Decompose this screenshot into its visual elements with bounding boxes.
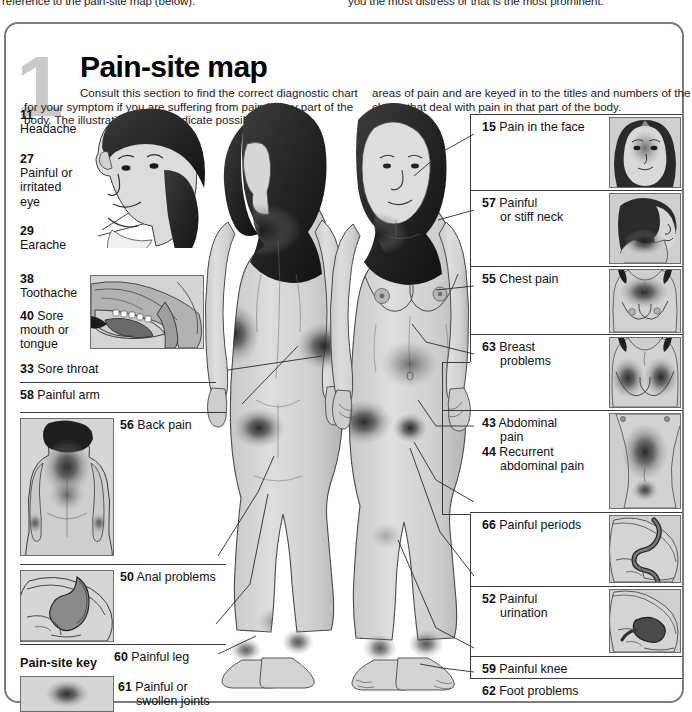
label-57-text-line1: Painful [499,196,537,210]
label-15-number: 15 [482,120,496,134]
cut-text-right: you the most distress or that is the mos… [348,0,604,7]
label-33-text: Sore throat [37,362,98,376]
label-66-text: Painful periods [499,518,581,532]
label-52-text-line2: urination [482,606,548,620]
label-56-text: Back pain [137,418,191,432]
label-27-text-line3: eye [20,195,40,209]
label-61-number: 61 [118,680,132,694]
label-38-text: Toothache [20,286,77,300]
divider-r7 [470,656,682,657]
label-27-painful-eye: 27 Painful or irritated eye [20,152,72,209]
label-66-painful-periods: 66 Painful periods [482,518,581,532]
anal-problems-panel [20,570,114,642]
divider-r0 [470,114,682,115]
label-44-number: 44 [482,445,496,459]
face-front-thumb [609,117,681,188]
label-61-text-line2: swollen joints [118,694,210,708]
divider-above-painful-leg [20,644,226,645]
divider-r2 [470,266,682,267]
label-40-number: 40 [20,309,34,323]
label-56-number: 56 [120,418,134,432]
right-column-step-connector [442,514,470,515]
label-11-headache: 11 Headache [20,108,77,136]
chest-thumb [609,269,681,333]
label-44-text-line1: Recurrent [499,445,553,459]
label-50-text: Anal problems [137,570,216,584]
label-63-number: 63 [482,340,496,354]
label-58-painful-arm: 58 Painful arm [20,388,100,402]
head-profile-illustration [68,108,218,248]
pain-site-key-swatch [20,676,114,712]
divider-r1 [470,190,682,191]
breast-thumb [609,337,681,408]
pelvis-uterus-thumb [609,515,681,583]
center-front-figure [330,103,470,690]
label-62-text: Foot problems [499,684,578,698]
label-59-painful-knee: 59 Painful knee [482,662,567,676]
label-15-pain-in-the-face: 15 Pain in the face [482,120,585,134]
label-61-text-line1: Painful or [135,680,187,694]
label-43-number: 43 [482,416,496,430]
right-column-left-border-mid [442,362,443,514]
label-50-number: 50 [120,570,134,584]
label-27-text-line1: Painful or [20,166,72,180]
label-40-text-line1: Sore [37,309,63,323]
label-59-number: 59 [482,662,496,676]
label-43-text-line1: Abdominal [499,416,558,430]
label-62-number: 62 [482,684,496,698]
label-38-number: 38 [20,272,34,286]
divider-above-painful-arm [20,382,216,383]
label-40-text-line2: mouth or [20,323,69,337]
label-62-foot-problems: 62 Foot problems [482,684,578,698]
label-43-abdominal-pain: 43 Abdominal pain [482,416,557,444]
right-column-left-border-bottom [470,514,471,679]
right-column-left-border-top [470,114,471,362]
right-column-step-connector-upper [442,362,470,363]
label-40-text-line3: tongue [20,337,58,351]
label-57-number: 57 [482,196,496,210]
label-63-text-line2: problems [482,354,551,368]
label-60-painful-leg: 60 Painful leg [114,650,189,664]
label-33-sore-throat: 33 Sore throat [20,362,99,376]
label-61-painful-joints: 61 Painful or swollen joints [118,680,210,708]
label-52-painful-urination: 52 Painful urination [482,592,548,620]
label-60-text: Painful leg [131,650,189,664]
label-15-text: Pain in the face [499,120,584,134]
label-63-text-line1: Breast [499,340,535,354]
label-29-number: 29 [20,224,34,238]
label-52-number: 52 [482,592,496,606]
label-66-number: 66 [482,518,496,532]
label-59-text: Painful knee [499,662,567,676]
label-44-text-line2: abdominal pain [482,459,584,473]
label-55-chest-pain: 55 Chest pain [482,272,559,286]
label-44-recurrent-abdominal-pain: 44 Recurrent abdominal pain [482,445,584,473]
pain-site-map-panel: 1 Pain-site map Consult this section to … [4,22,684,703]
divider-r3 [470,334,682,335]
label-27-text-line2: irritated [20,180,61,194]
divider-above-anal-problems [20,564,226,565]
label-58-number: 58 [20,388,34,402]
divider-r8 [470,678,682,679]
mouth-throat-panel [90,275,204,349]
label-27-number: 27 [20,152,34,166]
label-55-number: 55 [482,272,496,286]
cut-text-left: reference to the pain-site map (below). [2,0,195,7]
divider-r6 [470,586,682,587]
page-top-cut-text: reference to the pain-site map (below). … [0,0,692,14]
label-52-text-line1: Painful [499,592,537,606]
back-pain-panel [20,418,114,556]
divider-r4 [442,410,682,411]
label-60-number: 60 [114,650,128,664]
label-33-number: 33 [20,362,34,376]
neck-profile-thumb [609,193,681,264]
center-back-figure [205,103,351,688]
label-29-earache: 29 Earache [20,224,66,252]
label-29-text: Earache [20,238,66,252]
label-58-text: Painful arm [37,388,100,402]
label-56-back-pain: 56 Back pain [120,418,192,432]
label-40-sore-mouth: 40 Sore mouth or tongue [20,309,69,352]
label-38-toothache: 38 Toothache [20,272,77,300]
label-50-anal-problems: 50 Anal problems [120,570,216,584]
label-43-text-line2: pain [482,430,523,444]
divider-r5 [470,512,682,513]
